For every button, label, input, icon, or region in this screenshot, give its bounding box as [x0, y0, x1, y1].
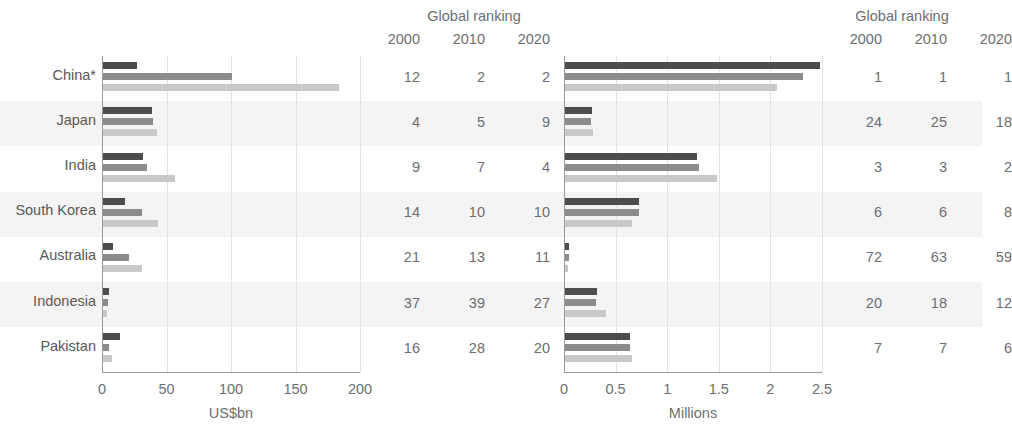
bar-india-2000 — [103, 153, 143, 160]
gridline — [770, 56, 771, 372]
ranking-cell-south-korea-2000: 14 — [360, 204, 420, 220]
ranking-cell-indonesia-2020: 27 — [490, 295, 550, 311]
ranking-cell-india-2010: 3 — [887, 159, 947, 175]
ranking-cell-china-2000: 1 — [822, 69, 882, 85]
ranking-cell-australia-2000: 21 — [360, 249, 420, 265]
ranking-cell-japan-2010: 25 — [887, 114, 947, 130]
gridline — [667, 56, 668, 372]
ranking-cell-japan-2020: 9 — [490, 114, 550, 130]
bar-india-2000 — [565, 153, 697, 160]
bar-australia-2010 — [565, 254, 569, 261]
x-tick-200: 200 — [330, 381, 390, 397]
bar-china-2010 — [565, 73, 803, 80]
ranking-cell-australia-2020: 11 — [490, 249, 550, 265]
ranking-cell-pakistan-2010: 28 — [425, 340, 485, 356]
bar-japan-2020 — [565, 129, 593, 136]
x-tick-100: 100 — [201, 381, 261, 397]
bar-pakistan-2000 — [565, 333, 630, 340]
ranking-cell-south-korea-2020: 8 — [952, 204, 1012, 220]
category-label-india: India — [0, 157, 96, 173]
ranking-cell-india-2000: 9 — [360, 159, 420, 175]
bar-south-korea-2010 — [103, 209, 142, 216]
gridline — [231, 56, 232, 372]
bar-south-korea-2010 — [565, 209, 639, 216]
bar-china-2020 — [565, 84, 777, 91]
ranking-cell-pakistan-2000: 16 — [360, 340, 420, 356]
ranking-cell-japan-2020: 18 — [952, 114, 1012, 130]
ranking-cell-pakistan-2020: 20 — [490, 340, 550, 356]
ranking-cell-south-korea-2010: 6 — [887, 204, 947, 220]
bar-japan-2020 — [103, 129, 157, 136]
gridline — [167, 56, 168, 372]
gridline — [296, 56, 297, 372]
ranking-cell-indonesia-2010: 39 — [425, 295, 485, 311]
gridline — [719, 56, 720, 372]
x-tick-50: 50 — [137, 381, 197, 397]
ranking-cell-indonesia-2000: 37 — [360, 295, 420, 311]
ranking-cell-australia-2010: 13 — [425, 249, 485, 265]
bar-india-2010 — [565, 164, 699, 171]
ranking-year-2000: 2000 — [822, 31, 882, 47]
ranking-cell-china-2010: 2 — [425, 69, 485, 85]
ranking-year-2010: 2010 — [887, 31, 947, 47]
panel-left: Global ranking200020102020 China*JapanIn… — [0, 0, 588, 435]
ranking-cell-south-korea-2010: 10 — [425, 204, 485, 220]
ranking-cell-india-2020: 4 — [490, 159, 550, 175]
ranking-cell-japan-2000: 24 — [822, 114, 882, 130]
category-label-pakistan: Pakistan — [0, 338, 96, 354]
bar-pakistan-2020 — [565, 355, 632, 362]
bar-pakistan-2010 — [103, 344, 109, 351]
bar-china-2000 — [103, 62, 137, 69]
ranking-cell-china-2010: 1 — [887, 69, 947, 85]
bar-indonesia-2010 — [103, 299, 108, 306]
ranking-cell-australia-2000: 72 — [822, 249, 882, 265]
ranking-cell-japan-2000: 4 — [360, 114, 420, 130]
bar-australia-2020 — [103, 265, 142, 272]
ranking-cell-indonesia-2000: 20 — [822, 295, 882, 311]
category-label-japan: Japan — [0, 112, 96, 128]
x-tick-0: 0 — [72, 381, 132, 397]
category-label-south-korea: South Korea — [0, 202, 96, 218]
ranking-cell-indonesia-2020: 12 — [952, 295, 1012, 311]
bar-china-2010 — [103, 73, 232, 80]
ranking-year-2020: 2020 — [490, 31, 550, 47]
ranking-cell-south-korea-2000: 6 — [822, 204, 882, 220]
bar-indonesia-2000 — [565, 288, 597, 295]
ranking-cell-pakistan-2000: 7 — [822, 340, 882, 356]
bar-australia-2000 — [103, 243, 113, 250]
bar-china-2020 — [103, 84, 339, 91]
x-axis-title: Millions — [564, 405, 822, 421]
ranking-year-2010: 2010 — [425, 31, 485, 47]
ranking-cell-south-korea-2020: 10 — [490, 204, 550, 220]
ranking-cell-pakistan-2010: 7 — [887, 340, 947, 356]
x-axis-line — [102, 372, 360, 373]
ranking-title: Global ranking — [360, 8, 588, 24]
category-label-australia: Australia — [0, 247, 96, 263]
panel-right: Global ranking200020102020 00.511.522.5M… — [588, 0, 982, 435]
ranking-cell-china-2020: 2 — [490, 69, 550, 85]
bar-japan-2000 — [565, 107, 592, 114]
bar-australia-2020 — [565, 265, 568, 272]
x-axis-line — [564, 372, 822, 373]
bar-south-korea-2000 — [103, 198, 125, 205]
ranking-cell-australia-2010: 63 — [887, 249, 947, 265]
ranking-year-2020: 2020 — [952, 31, 1012, 47]
bar-india-2020 — [103, 175, 175, 182]
bar-indonesia-2000 — [103, 288, 109, 295]
bar-indonesia-2010 — [565, 299, 596, 306]
bar-china-2000 — [565, 62, 820, 69]
ranking-cell-china-2020: 1 — [952, 69, 1012, 85]
bar-pakistan-2010 — [565, 344, 630, 351]
bar-indonesia-2020 — [565, 310, 606, 317]
bar-pakistan-2000 — [103, 333, 120, 340]
ranking-cell-australia-2020: 59 — [952, 249, 1012, 265]
bar-japan-2000 — [103, 107, 152, 114]
ranking-year-2000: 2000 — [360, 31, 420, 47]
bar-japan-2010 — [565, 118, 591, 125]
bar-south-korea-2000 — [565, 198, 639, 205]
ranking-title: Global ranking — [822, 8, 982, 24]
ranking-cell-japan-2010: 5 — [425, 114, 485, 130]
ranking-cell-india-2010: 7 — [425, 159, 485, 175]
bar-india-2010 — [103, 164, 147, 171]
bar-india-2020 — [565, 175, 717, 182]
